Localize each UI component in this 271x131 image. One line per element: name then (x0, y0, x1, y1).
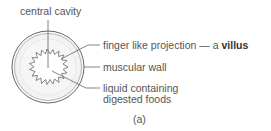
label-central-cavity: central cavity (20, 5, 81, 17)
label-liquid-line2: digested foods (103, 93, 171, 105)
figure-caption: (a) (133, 113, 146, 125)
label-villus: finger like projection — a villus (103, 39, 248, 51)
label-villus-text: finger like projection — a (103, 39, 221, 51)
label-muscular-wall: muscular wall (103, 61, 167, 73)
label-villus-term: villus (221, 39, 248, 51)
